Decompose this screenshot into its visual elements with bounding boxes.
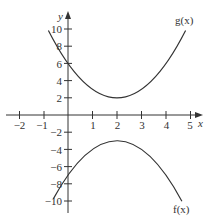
y-axis-label: y <box>57 10 63 22</box>
y-tick-label: −8 <box>50 178 62 190</box>
x-tick-label: 1 <box>90 119 96 131</box>
y-tick-label: 10 <box>51 23 63 35</box>
y-tick-label: 4 <box>57 75 63 87</box>
y-axis-arrow-icon <box>65 11 71 19</box>
y-tick-label: −2 <box>50 126 62 138</box>
g-curve <box>48 30 185 97</box>
x-tick-label: 4 <box>164 119 170 131</box>
x-tick-label: 3 <box>139 119 145 131</box>
f-curve <box>53 141 182 201</box>
x-tick-label: −1 <box>36 119 48 131</box>
y-tick-label: 6 <box>57 58 63 70</box>
g-curve-label: g(x) <box>175 14 194 27</box>
x-axis-label: x <box>197 117 203 129</box>
y-tick-label: 2 <box>57 92 63 104</box>
x-tick-labels: −2 −1 1 2 3 4 5 <box>14 119 194 131</box>
x-tick-label: 2 <box>115 119 121 131</box>
x-tick-label: −2 <box>14 119 26 131</box>
y-tick-label: −10 <box>45 195 63 207</box>
f-curve-label: f(x) <box>173 203 190 216</box>
x-tick-label: 5 <box>187 119 193 131</box>
y-tick-label: −4 <box>50 144 62 156</box>
y-tick-label: −6 <box>50 161 62 173</box>
chart: x y −2 −1 1 2 3 4 5 10 8 6 4 <box>0 0 205 217</box>
